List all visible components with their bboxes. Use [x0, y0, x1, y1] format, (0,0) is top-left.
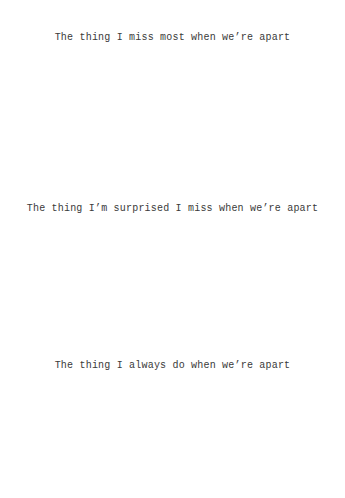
- document-page: The thing I miss most when we’re apart T…: [0, 0, 345, 498]
- prompt-line-3: The thing I always do when we’re apart: [0, 359, 345, 372]
- prompt-line-2: The thing I’m surprised I miss when we’r…: [0, 202, 345, 215]
- prompt-line-1: The thing I miss most when we’re apart: [0, 31, 345, 44]
